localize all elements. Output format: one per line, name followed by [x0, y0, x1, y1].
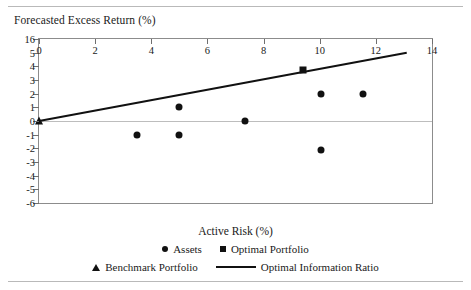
- y-axis-tick-label: 1: [30, 102, 35, 113]
- y-axis-tick-label: -5: [26, 184, 35, 195]
- legend-label: Benchmark Portfolio: [105, 261, 198, 273]
- legend-item: Assets: [162, 243, 202, 255]
- legend-row-secondary: Benchmark PortfolioOptimal Information R…: [0, 261, 471, 273]
- triangle-marker-icon: [92, 264, 100, 271]
- top-divider-rule: [8, 6, 463, 7]
- legend-label: Assets: [173, 243, 202, 255]
- y-axis-tick-label: 3: [30, 75, 35, 86]
- y-axis-tick-label: -6: [26, 198, 35, 209]
- circle-marker-icon: [162, 246, 168, 252]
- legend-label: Optimal Information Ratio: [261, 261, 379, 273]
- bottom-divider-rule: [8, 281, 463, 282]
- x-axis-tick-label: 10: [314, 45, 325, 56]
- y-axis-tick-label: -4: [26, 170, 35, 181]
- x-axis-tick-label: 0: [36, 45, 41, 56]
- y-axis-tick-label: -1: [26, 129, 35, 140]
- x-axis-tick-label: 14: [427, 45, 438, 56]
- trend-line-segment: [39, 53, 407, 121]
- legend-row-primary: AssetsOptimal Portfolio: [0, 243, 471, 255]
- x-axis-tick-label: 2: [93, 45, 98, 56]
- data-point-circle: [176, 131, 183, 138]
- x-axis-title: Active Risk (%): [0, 225, 471, 237]
- figure-container: Forecasted Excess Return (%) 16543210-1-…: [0, 0, 471, 290]
- x-axis-tick-label: 4: [149, 45, 154, 56]
- x-axis-tick-label: 8: [261, 45, 266, 56]
- optimal-information-ratio-line: [39, 39, 432, 203]
- y-axis-tick-label: 16: [25, 34, 36, 45]
- x-axis-tick-mark: [376, 39, 377, 44]
- data-point-circle: [318, 146, 325, 153]
- square-marker-icon: [220, 246, 226, 252]
- x-axis-tick-mark: [264, 39, 265, 44]
- x-axis-tick-label: 12: [371, 45, 382, 56]
- x-axis-tick-mark: [207, 39, 208, 44]
- x-axis-tick-mark: [95, 39, 96, 44]
- x-axis-tick-label: 6: [205, 45, 210, 56]
- x-axis-tick-mark: [39, 39, 40, 44]
- chart-legend: AssetsOptimal Portfolio Benchmark Portfo…: [0, 243, 471, 279]
- y-axis-tick-label: -2: [26, 143, 35, 154]
- legend-item: Benchmark Portfolio: [92, 261, 198, 273]
- y-axis-tick-label: 0: [30, 116, 35, 127]
- y-axis-tick-label: 4: [30, 61, 35, 72]
- data-point-circle: [134, 131, 141, 138]
- line-marker-icon: [216, 266, 256, 268]
- data-point-circle: [318, 90, 325, 97]
- y-axis-tick-label: 2: [30, 88, 35, 99]
- legend-item: Optimal Portfolio: [220, 243, 309, 255]
- data-point-circle: [242, 118, 249, 125]
- y-axis-title: Forecasted Excess Return (%): [14, 14, 156, 26]
- x-axis-tick-mark: [151, 39, 152, 44]
- data-point-circle: [176, 104, 183, 111]
- data-point-square: [299, 67, 306, 74]
- legend-item: Optimal Information Ratio: [216, 261, 379, 273]
- y-axis-tick-label: 5: [30, 47, 35, 58]
- x-axis-tick-mark: [432, 39, 433, 44]
- x-axis-tick-mark: [320, 39, 321, 44]
- plot-area: 16543210-1-2-3-4-5-6 02468101214: [38, 38, 433, 204]
- legend-label: Optimal Portfolio: [231, 243, 309, 255]
- data-point-circle: [360, 90, 367, 97]
- y-axis-tick-label: -3: [26, 157, 35, 168]
